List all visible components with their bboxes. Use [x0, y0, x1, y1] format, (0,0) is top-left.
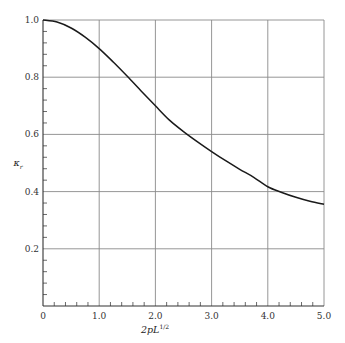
- x-tick-label: 3.0: [204, 311, 219, 321]
- x-tick-label: 4.0: [261, 311, 276, 321]
- y-tick-label: 0.4: [25, 187, 40, 197]
- x-tick-label: 1.0: [92, 311, 107, 321]
- grid-lines: [43, 20, 324, 306]
- chart: 01.02.03.04.05.00.20.40.60.81.0 2pL1/2 κ…: [0, 0, 345, 343]
- data-curve: [43, 20, 324, 204]
- y-tick-label: 0.8: [25, 72, 40, 82]
- y-tick-label: 0.6: [25, 129, 40, 139]
- tick-labels: 01.02.03.04.05.00.20.40.60.81.0: [25, 15, 332, 321]
- minor-ticks: [43, 31, 313, 306]
- y-axis-label: κr: [12, 157, 23, 170]
- y-tick-label: 0.2: [25, 244, 39, 254]
- x-tick-label: 2.0: [148, 311, 163, 321]
- x-tick-label: 5.0: [317, 311, 332, 321]
- x-tick-label: 0: [40, 311, 46, 321]
- x-axis-label: 2pL1/2: [140, 323, 169, 335]
- y-tick-label: 1.0: [25, 15, 40, 25]
- axes: [43, 20, 324, 306]
